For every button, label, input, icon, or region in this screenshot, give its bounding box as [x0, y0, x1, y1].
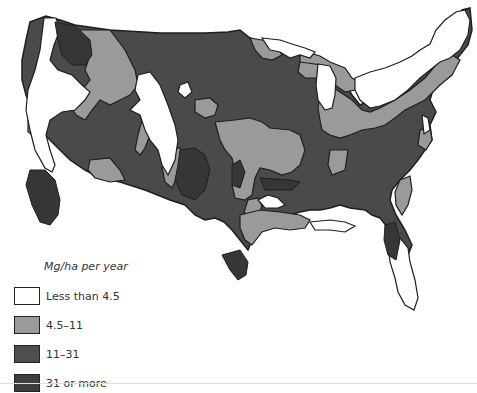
legend-item-11-to-31: 11–31 — [14, 344, 80, 364]
legend-swatch — [14, 316, 40, 334]
legend-label: 4.5–11 — [46, 319, 83, 332]
legend-label: 11–31 — [46, 348, 80, 361]
legend-swatch — [14, 345, 40, 363]
legend-label: Less than 4.5 — [46, 290, 120, 303]
legend-title: Mg/ha per year — [44, 260, 128, 273]
legend-swatch — [14, 287, 40, 305]
bottom-divider — [0, 383, 477, 384]
legend-item-less-than-4-5: Less than 4.5 — [14, 286, 120, 306]
legend-item-4-5-to-11: 4.5–11 — [14, 315, 83, 335]
